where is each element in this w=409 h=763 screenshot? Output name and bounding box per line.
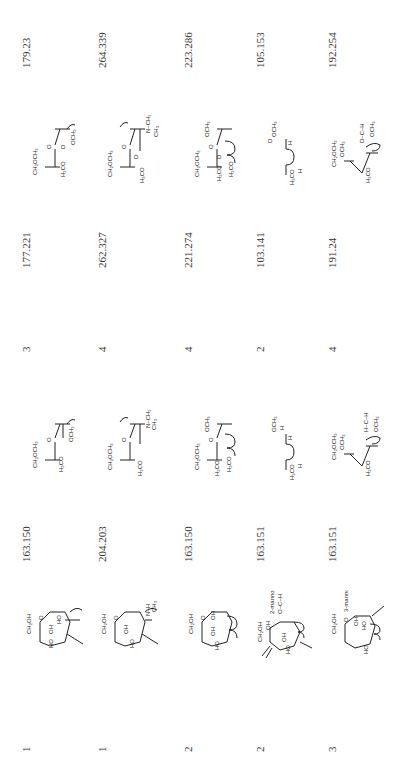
svg-text:OH: OH: [281, 633, 287, 642]
derivative-mass-b: 192.254: [326, 32, 338, 68]
svg-text:CH₂OH: CH₂OH: [101, 614, 107, 634]
structure-derivative-b: OCH₃ D H H₃CO H: [258, 115, 318, 187]
svg-text:H₃CO: H₃CO: [58, 456, 64, 472]
svg-text:OH: OH: [353, 617, 359, 626]
structure-residue: CH₂OH O OH OH HO: [187, 590, 247, 662]
svg-text:OH: OH: [265, 621, 271, 630]
svg-text:CH₃: CH₃: [151, 600, 157, 612]
svg-text:OCH₃: OCH₃: [373, 416, 379, 432]
svg-text:O: O: [200, 615, 206, 620]
residue-mass: 163.151: [326, 526, 338, 562]
row-index: 3: [326, 747, 338, 753]
svg-text:H₃CO: H₃CO: [137, 460, 143, 476]
deuterated-mannose3-structure-icon: CH₂OCH₃ OCH₃ H₃CO D–C–H OCH₃: [330, 115, 390, 187]
mannose-3-structure-icon: CH₂OH O OH HO HO 3-mannose: [330, 590, 390, 662]
derivative-mass-b: 179.23: [20, 38, 32, 68]
svg-text:D: D: [133, 154, 139, 159]
structure-derivative-a: OCH₃ H H H₃CO H: [258, 410, 318, 482]
structure-derivative-b: CH₂OCH₃ OCH₃ H₃CO D–C–H OCH₃: [330, 115, 390, 187]
open-chain-mannose-structure-icon: OCH₃ H H H₃CO H: [258, 410, 318, 482]
svg-text:OH: OH: [48, 625, 54, 634]
svg-text:CH₂OCH₃: CH₂OCH₃: [107, 150, 113, 177]
derivative-mass-a: 221.274: [182, 232, 194, 268]
svg-text:OCH₃: OCH₃: [339, 141, 345, 157]
hexnac-ring-structure-icon: CH₂OH O OH HO N–H CH₃: [100, 590, 160, 662]
svg-text:D–C–H: D–C–H: [359, 123, 365, 143]
derivative-mass-a: 103.141: [254, 232, 266, 268]
svg-text:OCH₃: OCH₃: [271, 416, 277, 432]
deuterated-structure-icon: CH₂OCH₃ O H₃CO D OCH₃: [25, 115, 85, 187]
svg-text:CH₃: CH₃: [153, 125, 159, 137]
svg-text:CH₂OH: CH₂OH: [257, 622, 263, 642]
derivative-mass-a: 191.24: [326, 238, 338, 268]
svg-text:H₃CO: H₃CO: [365, 460, 371, 476]
svg-text:O: O: [38, 615, 44, 620]
svg-text:OCH₃: OCH₃: [68, 426, 74, 442]
svg-text:CH₂OH: CH₂OH: [188, 614, 194, 634]
svg-text:D: D: [216, 154, 222, 159]
svg-text:OCH₃: OCH₃: [70, 129, 76, 145]
count: 4: [96, 347, 108, 353]
derivative-mass-a: 262.327: [96, 232, 108, 268]
structure-residue: CH₂OH O OH HO HO 3-mannose: [330, 590, 390, 662]
svg-text:CH₂OCH₃: CH₂OCH₃: [331, 140, 337, 167]
svg-text:O: O: [113, 615, 119, 620]
structure-derivative-a: CH₂OCH₃ OCH₃ H₃CO H–C–H OCH₃: [330, 410, 390, 482]
structure-residue: CH₂OH OH O–C–H OH HO 2-mannose: [256, 590, 316, 662]
open-chain-structure-icon: CH₂OCH₃ O H₃CO OCH₃: [25, 410, 85, 482]
svg-text:HO: HO: [129, 639, 135, 648]
deuterated-hexnac-structure-icon: CH₂OCH₃ O H₃CO D N–CH₃ CH₃: [100, 115, 160, 187]
svg-text:HO: HO: [48, 639, 54, 648]
deuterated-branched-structure-icon: CH₂OCH₃ O H₃CO H₃CO D OCH₃: [187, 115, 247, 187]
svg-text:H₃CO: H₃CO: [139, 167, 145, 183]
svg-text:HO: HO: [56, 615, 62, 624]
svg-text:CH₂OCH₃: CH₂OCH₃: [194, 150, 200, 177]
svg-text:OH: OH: [210, 611, 216, 620]
svg-text:D: D: [60, 144, 66, 149]
row-index: 2: [254, 747, 266, 753]
hexose-ring-branched-structure-icon: CH₂OH O OH OH HO: [187, 590, 247, 662]
svg-text:O: O: [208, 437, 214, 442]
derivative-mass-b: 223.286: [182, 32, 194, 68]
svg-text:O: O: [46, 144, 52, 149]
residue-mass: 163.150: [20, 526, 32, 562]
svg-text:H–C–H: H–C–H: [363, 412, 369, 432]
svg-text:O: O: [208, 144, 214, 149]
svg-text:OH: OH: [123, 625, 129, 634]
svg-text:H₃CO: H₃CO: [365, 167, 371, 183]
svg-text:CH₂OCH₃: CH₂OCH₃: [32, 441, 38, 468]
svg-text:OCH₃: OCH₃: [271, 121, 277, 137]
svg-text:CH₂OH: CH₂OH: [331, 614, 337, 634]
open-chain-mannose3-structure-icon: CH₂OCH₃ OCH₃ H₃CO H–C–H OCH₃: [330, 410, 390, 482]
structure-derivative-a: CH₂OCH₃ O H₃CO OCH₃: [25, 410, 85, 482]
svg-text:O: O: [121, 437, 127, 442]
open-chain-branched-structure-icon: CH₂OCH₃ O H₃CO H₃CO OCH₃: [187, 410, 247, 482]
structure-residue: CH₂OH O OH HO HO: [25, 590, 85, 662]
residue-mass: 163.151: [254, 526, 266, 562]
count: 4: [182, 347, 194, 353]
svg-text:H₃CO: H₃CO: [214, 460, 220, 476]
svg-text:O: O: [121, 144, 127, 149]
derivative-mass-b: 264.339: [96, 32, 108, 68]
row-index: 1: [96, 747, 108, 753]
mannose-label: 2-mannose: [269, 590, 275, 614]
svg-text:H₃CO: H₃CO: [289, 464, 295, 480]
mannose-2-structure-icon: CH₂OH OH O–C–H OH HO 2-mannose: [256, 590, 316, 662]
svg-text:CH₂OCH₃: CH₂OCH₃: [32, 148, 38, 175]
svg-text:CH₂OCH₃: CH₂OCH₃: [331, 433, 337, 460]
structure-derivative-b: CH₂OCH₃ O H₃CO H₃CO D OCH₃: [187, 115, 247, 187]
svg-text:CH₂OCH₃: CH₂OCH₃: [194, 443, 200, 470]
svg-text:OCH₃: OCH₃: [339, 434, 345, 450]
residue-mass: 163.150: [182, 526, 194, 562]
svg-text:H₃CO: H₃CO: [289, 169, 295, 185]
count: 4: [326, 347, 338, 353]
deuterated-mannose-structure-icon: OCH₃ D H H₃CO H: [258, 115, 318, 187]
svg-text:HO: HO: [214, 641, 220, 650]
row-index: 2: [182, 747, 194, 753]
derivative-mass-a: 177.221: [20, 232, 32, 268]
open-chain-hexnac-structure-icon: CH₂OCH₃ O H₃CO N–CH₃ CH₃: [100, 410, 160, 482]
hexose-ring-structure-icon: CH₂OH O OH HO HO: [25, 590, 85, 662]
structure-residue: CH₂OH O OH HO N–H CH₃: [100, 590, 160, 662]
svg-text:H: H: [287, 436, 293, 440]
count: 2: [254, 347, 266, 353]
